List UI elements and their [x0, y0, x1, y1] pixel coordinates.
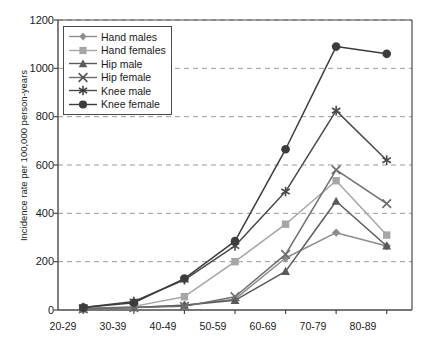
data-point-square [282, 221, 289, 228]
legend-label: Knee male [101, 85, 151, 97]
legend-item-knee-male: Knee male [68, 84, 166, 98]
data-point-square [231, 258, 238, 265]
data-point-diamond [332, 228, 340, 236]
legend-item-hip-female: Hip female [68, 71, 166, 85]
legend-item-knee-female: Knee female [68, 98, 166, 112]
legend-item-hand-males: Hand males [68, 30, 166, 44]
legend-label: Hand males [101, 31, 157, 43]
legend-symbol-triangle-icon [68, 57, 98, 70]
data-point-square [332, 177, 339, 184]
legend-label: Hand females [101, 44, 166, 56]
chart-figure: Incidence rate per 100,000 person-years … [0, 0, 430, 348]
legend-label: Knee female [101, 98, 160, 110]
legend-symbol-square-icon [68, 44, 98, 57]
data-point-circle [79, 303, 88, 312]
data-point-circle [382, 50, 391, 59]
chart-legend: Hand males Hand females Hip male Hip fem… [63, 26, 172, 115]
legend-item-hip-male: Hip male [68, 57, 166, 71]
legend-label: Hip male [101, 58, 142, 70]
data-point-triangle [332, 197, 341, 205]
series-line [83, 201, 386, 309]
legend-symbol-circle-icon [68, 98, 98, 111]
data-point-circle [180, 274, 189, 283]
legend-symbol-x-icon [68, 71, 98, 84]
data-point-circle [281, 145, 290, 154]
legend-symbol-diamond-icon [68, 30, 98, 43]
data-point-circle [332, 42, 341, 51]
data-point-circle [231, 237, 240, 246]
legend-symbol-asterisk-icon [68, 84, 98, 97]
data-point-circle [130, 298, 139, 307]
data-point-x [382, 199, 391, 208]
data-point-square [383, 231, 390, 238]
data-point-square [181, 293, 188, 300]
series-line [83, 111, 386, 308]
legend-label: Hip female [101, 71, 151, 83]
data-point-x [332, 166, 341, 175]
legend-item-hand-females: Hand females [68, 44, 166, 58]
